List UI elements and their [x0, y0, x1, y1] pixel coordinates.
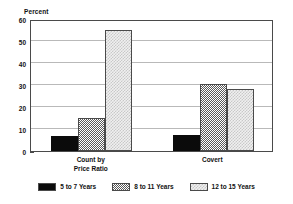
legend-swatch — [190, 183, 208, 191]
legend-item[interactable]: 5 to 7 Years — [38, 183, 96, 191]
y-axis-tick-mark — [30, 152, 34, 153]
legend-label: 5 to 7 Years — [60, 183, 96, 191]
bar — [105, 30, 132, 151]
y-axis-tick-label: 20 — [19, 105, 26, 112]
legend-swatch — [38, 183, 56, 191]
x-axis-category-label: Count byPrice Ratio — [74, 156, 108, 173]
bar — [78, 118, 105, 151]
y-axis-tick-labels: 0102030405060 — [0, 20, 26, 152]
legend-swatch — [112, 183, 130, 191]
gridline — [31, 84, 272, 85]
legend-label: 12 to 15 Years — [212, 183, 255, 191]
y-axis-tick-label: 40 — [19, 61, 26, 68]
bar-chart: Percent 0102030405060 Count byPrice Rati… — [0, 0, 293, 204]
legend-label: 8 to 11 Years — [134, 183, 173, 191]
y-axis-tick-label: 30 — [19, 83, 26, 90]
x-axis-category-line: Count by — [74, 156, 108, 165]
y-axis-tick-label: 60 — [19, 17, 26, 24]
gridline — [31, 40, 272, 41]
bar — [200, 84, 227, 151]
y-axis-title: Percent — [24, 8, 49, 16]
bar — [173, 135, 200, 151]
plot-area — [30, 20, 273, 152]
chart-legend: 5 to 7 Years8 to 11 Years12 to 15 Years — [0, 183, 293, 191]
x-axis-category-line: Covert — [202, 156, 223, 165]
y-axis-tick-label: 50 — [19, 39, 26, 46]
y-axis-tick-label: 10 — [19, 127, 26, 134]
gridline — [31, 62, 272, 63]
legend-item[interactable]: 12 to 15 Years — [190, 183, 255, 191]
plot-inner — [31, 21, 272, 151]
x-axis-category-label: Covert — [202, 156, 223, 165]
bar — [51, 136, 78, 151]
y-axis-tick-label: 0 — [22, 149, 26, 156]
x-axis-category-line: Price Ratio — [74, 165, 108, 174]
bar — [227, 89, 254, 151]
legend-item[interactable]: 8 to 11 Years — [112, 183, 173, 191]
